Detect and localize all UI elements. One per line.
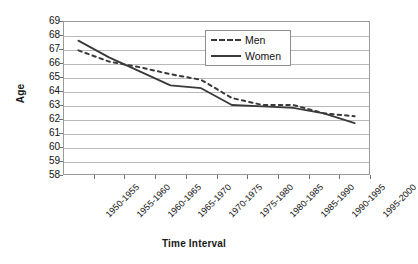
x-tick-mark xyxy=(186,175,187,179)
y-tick-mark xyxy=(59,175,63,176)
y-axis-title: Age xyxy=(15,64,26,124)
y-tick-mark xyxy=(59,49,63,50)
legend-item-men: Men xyxy=(211,32,265,48)
x-tick-mark xyxy=(124,175,125,179)
y-tick-label: 64 xyxy=(34,86,60,96)
x-tick-mark xyxy=(94,175,95,179)
legend-swatch-dashed-icon xyxy=(211,35,241,45)
y-tick-label: 62 xyxy=(34,114,60,124)
y-tick-label: 63 xyxy=(34,100,60,110)
x-tick-mark xyxy=(155,175,156,179)
y-axis-tick-labels: 696867666564636261605958 xyxy=(30,21,60,175)
legend-label-women: Women xyxy=(245,51,281,62)
legend: Men Women xyxy=(205,30,291,66)
y-tick-label: 67 xyxy=(34,44,60,54)
x-tick-mark xyxy=(339,175,340,179)
legend-swatch-solid-icon xyxy=(211,51,241,61)
x-tick-mark xyxy=(370,175,371,179)
y-tick-mark xyxy=(59,77,63,78)
y-tick-mark xyxy=(59,105,63,106)
x-tick-mark xyxy=(278,175,279,179)
y-tick-label: 60 xyxy=(34,142,60,152)
y-tick-label: 68 xyxy=(34,30,60,40)
y-tick-mark xyxy=(59,63,63,64)
y-tick-label: 69 xyxy=(34,16,60,26)
y-tick-mark xyxy=(59,147,63,148)
y-tick-mark xyxy=(59,133,63,134)
x-axis-title: Time Interval xyxy=(0,238,388,249)
legend-item-women: Women xyxy=(211,48,281,64)
y-tick-label: 66 xyxy=(34,58,60,68)
y-tick-mark xyxy=(59,119,63,120)
y-tick-label: 61 xyxy=(34,128,60,138)
x-tick-mark xyxy=(247,175,248,179)
y-tick-label: 65 xyxy=(34,72,60,82)
x-tick-mark xyxy=(217,175,218,179)
y-tick-mark xyxy=(59,91,63,92)
y-tick-mark xyxy=(59,161,63,162)
legend-label-men: Men xyxy=(245,35,265,46)
y-tick-label: 58 xyxy=(34,170,60,180)
y-tick-mark xyxy=(59,21,63,22)
y-tick-mark xyxy=(59,35,63,36)
x-tick-mark xyxy=(309,175,310,179)
y-tick-label: 59 xyxy=(34,156,60,166)
